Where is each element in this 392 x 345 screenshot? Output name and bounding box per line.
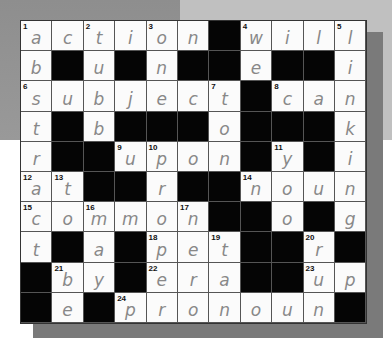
crossword-cell[interactable]: 22e — [147, 263, 178, 293]
crossword-cell[interactable]: 14n — [241, 172, 272, 202]
crossword-cell[interactable]: 17n — [178, 202, 209, 232]
crossword-cell[interactable]: o — [272, 172, 303, 202]
crossword-cell[interactable]: k — [335, 112, 366, 142]
crossword-cell[interactable]: u — [304, 172, 335, 202]
cell-letter: n — [178, 209, 208, 229]
black-square — [241, 112, 272, 142]
crossword-cell[interactable]: n — [304, 293, 335, 323]
crossword-cell[interactable]: n — [335, 172, 366, 202]
crossword-cell[interactable]: 2t — [84, 21, 115, 51]
crossword-cell[interactable]: r — [147, 172, 178, 202]
crossword-cell[interactable]: 20r — [304, 232, 335, 262]
cell-letter: u — [115, 149, 145, 169]
cell-letter: e — [147, 270, 177, 290]
crossword-cell[interactable]: 19t — [209, 232, 240, 262]
crossword-cell[interactable]: j — [115, 81, 146, 111]
crossword-cell[interactable]: o — [147, 202, 178, 232]
crossword-cell[interactable]: 6s — [21, 81, 52, 111]
cell-letter: i — [335, 58, 365, 78]
black-square — [178, 172, 209, 202]
crossword-cell[interactable]: b — [84, 81, 115, 111]
crossword-cell[interactable]: y — [84, 263, 115, 293]
crossword-cell[interactable]: t — [21, 112, 52, 142]
crossword-cell[interactable]: n — [178, 21, 209, 51]
crossword-cell[interactable]: a — [209, 263, 240, 293]
crossword-cell[interactable]: 8c — [272, 81, 303, 111]
crossword-cell[interactable]: e — [147, 81, 178, 111]
crossword-cell[interactable]: 9u — [115, 142, 146, 172]
black-square — [209, 202, 240, 232]
crossword-cell[interactable]: 13t — [52, 172, 83, 202]
crossword-cell[interactable]: i — [272, 21, 303, 51]
crossword-cell[interactable]: e — [241, 51, 272, 81]
cell-letter: n — [209, 300, 239, 320]
crossword-cell[interactable]: i — [115, 21, 146, 51]
crossword-cell[interactable]: n — [147, 51, 178, 81]
cell-letter: u — [84, 58, 114, 78]
crossword-cell[interactable]: c — [178, 81, 209, 111]
crossword-cell[interactable]: 1a — [21, 21, 52, 51]
cell-letter: y — [84, 270, 114, 290]
crossword-cell[interactable]: m — [115, 202, 146, 232]
crossword-cell[interactable]: 11y — [272, 142, 303, 172]
black-square — [241, 263, 272, 293]
cell-letter: m — [84, 209, 114, 229]
crossword-cell[interactable]: o — [178, 142, 209, 172]
cell-letter: p — [147, 240, 177, 260]
crossword-cell[interactable]: r — [178, 263, 209, 293]
crossword-cell[interactable]: 12a — [21, 172, 52, 202]
cell-letter: n — [178, 28, 208, 48]
crossword-cell[interactable]: c — [52, 21, 83, 51]
cell-letter: c — [21, 209, 51, 229]
black-square — [272, 232, 303, 262]
crossword-cell[interactable]: e — [178, 232, 209, 262]
crossword-cell[interactable]: n — [209, 293, 240, 323]
crossword-cell[interactable]: g — [335, 202, 366, 232]
crossword-cell[interactable]: 15c — [21, 202, 52, 232]
crossword-cell[interactable]: n — [335, 81, 366, 111]
crossword-cell[interactable]: 4w — [241, 21, 272, 51]
black-square — [115, 51, 146, 81]
crossword-cell[interactable]: a — [304, 81, 335, 111]
black-square — [21, 263, 52, 293]
black-square — [21, 293, 52, 323]
crossword-cell[interactable]: o — [52, 202, 83, 232]
black-square — [304, 202, 335, 232]
crossword-cell[interactable]: 5l — [335, 21, 366, 51]
cell-letter: n — [209, 149, 239, 169]
crossword-cell[interactable]: n — [209, 142, 240, 172]
crossword-cell[interactable]: 18p — [147, 232, 178, 262]
black-square — [209, 21, 240, 51]
crossword-cell[interactable]: e — [52, 293, 83, 323]
crossword-cell[interactable]: 16m — [84, 202, 115, 232]
cell-letter: t — [21, 240, 51, 260]
crossword-cell[interactable]: t — [21, 232, 52, 262]
cell-letter: i — [272, 28, 302, 48]
crossword-cell[interactable]: u — [84, 51, 115, 81]
cell-letter: i — [115, 28, 145, 48]
crossword-cell[interactable]: i — [335, 142, 366, 172]
crossword-cell[interactable]: 10p — [147, 142, 178, 172]
crossword-cell[interactable]: p — [335, 263, 366, 293]
crossword-cell[interactable]: b — [21, 51, 52, 81]
crossword-cell[interactable]: u — [272, 293, 303, 323]
crossword-cell[interactable]: o — [209, 112, 240, 142]
crossword-cell[interactable]: o — [241, 293, 272, 323]
crossword-cell[interactable]: o — [272, 202, 303, 232]
crossword-cell[interactable]: 3o — [147, 21, 178, 51]
crossword-cell[interactable]: r — [147, 293, 178, 323]
crossword-cell[interactable]: a — [84, 232, 115, 262]
crossword-cell[interactable]: i — [335, 51, 366, 81]
cell-letter: c — [272, 89, 302, 109]
crossword-cell[interactable]: l — [304, 21, 335, 51]
crossword-cell[interactable]: 23u — [304, 263, 335, 293]
crossword-cell[interactable]: 7t — [209, 81, 240, 111]
crossword-cell[interactable]: b — [84, 112, 115, 142]
crossword-cell[interactable]: o — [178, 293, 209, 323]
crossword-cell[interactable]: 24p — [115, 293, 146, 323]
cell-letter: c — [178, 89, 208, 109]
crossword-cell[interactable]: 21b — [52, 263, 83, 293]
cell-letter: o — [52, 209, 82, 229]
crossword-cell[interactable]: r — [21, 142, 52, 172]
crossword-cell[interactable]: u — [52, 81, 83, 111]
